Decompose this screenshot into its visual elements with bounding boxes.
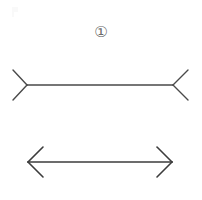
bottom-right-arrowhead-upper	[157, 147, 172, 162]
bottom-figure	[28, 147, 172, 177]
bottom-right-arrowhead-lower	[157, 162, 172, 177]
bottom-left-arrowhead-lower	[28, 162, 43, 177]
top-figure	[13, 70, 188, 100]
top-left-fin-lower	[13, 85, 27, 100]
top-right-fin-lower	[173, 85, 188, 100]
corner-watermark-icon	[12, 7, 18, 17]
muller-lyer-figure: ①	[0, 0, 202, 200]
top-left-fin-upper	[13, 70, 27, 85]
bottom-left-arrowhead-upper	[28, 147, 43, 162]
figure-number-label: ①	[0, 22, 202, 42]
top-right-fin-upper	[173, 70, 188, 85]
